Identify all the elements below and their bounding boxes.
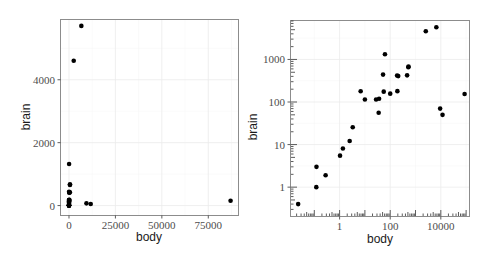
left-y-axis-title: brain	[19, 104, 33, 131]
right-x-tick-label: 10000	[427, 220, 455, 232]
data-point	[363, 97, 368, 102]
data-point	[338, 153, 343, 158]
data-point	[388, 91, 393, 96]
right-y-tick-label: 10	[274, 139, 286, 151]
data-point	[347, 139, 352, 144]
data-point	[228, 198, 233, 203]
data-point	[440, 113, 445, 118]
data-point	[296, 202, 301, 207]
data-point	[84, 201, 89, 206]
left-y-tick-label: 0	[50, 200, 56, 212]
right-x-tick-label: 100	[382, 220, 399, 232]
data-point	[88, 202, 93, 207]
data-point	[67, 198, 72, 203]
data-point	[71, 58, 76, 63]
left-y-tick-label: 4000	[33, 74, 56, 86]
data-point	[381, 72, 386, 77]
data-point	[314, 185, 319, 190]
right-x-tick-label: 1	[337, 220, 343, 232]
data-point	[68, 182, 73, 187]
left-x-tick-label: 0	[66, 219, 72, 231]
figure: 0250005000075000020004000 body brain 110…	[0, 0, 492, 261]
right-y-tick-label: 100	[269, 96, 286, 108]
data-point	[406, 64, 411, 69]
data-point	[376, 110, 381, 115]
data-point	[383, 52, 388, 57]
right-y-tick-label: 1000	[263, 53, 286, 65]
left-x-axis-title: body	[136, 230, 162, 244]
right-x-axis-title: body	[367, 232, 393, 246]
data-point	[79, 24, 84, 29]
linear-scatter-panel: 0250005000075000020004000 body brain	[19, 20, 239, 245]
data-point	[381, 89, 386, 94]
left-x-tick-label: 25000	[102, 219, 130, 231]
data-point	[462, 92, 467, 97]
data-point	[341, 146, 346, 151]
data-point	[350, 125, 355, 130]
data-point	[405, 73, 410, 78]
data-point	[396, 74, 401, 79]
data-point	[395, 89, 400, 94]
data-point	[374, 97, 379, 102]
data-point	[67, 162, 72, 167]
log-scatter-panel: 1100100001101001000 body brain	[246, 21, 470, 247]
data-point	[67, 203, 72, 208]
left-plot-area	[61, 20, 239, 216]
data-point	[438, 106, 443, 111]
data-point	[314, 165, 319, 170]
right-y-tick-label: 1	[280, 181, 286, 193]
data-point	[434, 25, 439, 30]
data-point	[423, 29, 428, 34]
right-y-axis-title: brain	[246, 114, 260, 141]
left-y-tick-label: 2000	[33, 137, 56, 149]
data-point	[358, 89, 363, 94]
left-x-tick-label: 75000	[195, 219, 223, 231]
data-point	[67, 189, 72, 194]
data-point	[323, 173, 328, 178]
